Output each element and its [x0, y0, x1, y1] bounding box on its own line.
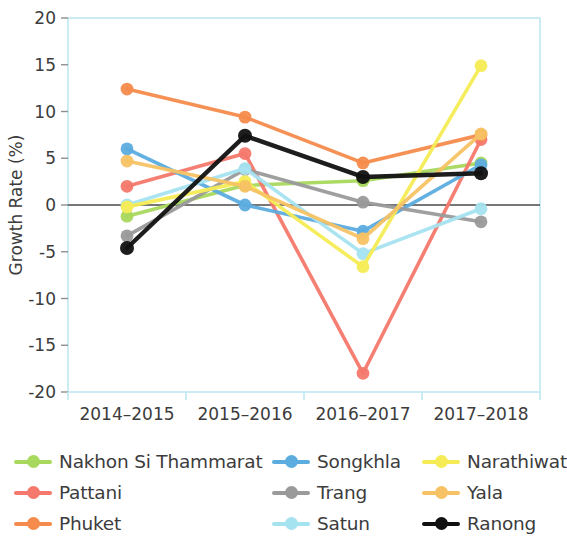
- line-chart-svg: -20-15-10-505101520Growth Rate (%)2014–2…: [0, 0, 552, 440]
- legend-label: Songkhla: [317, 451, 401, 472]
- legend-item-songkhla[interactable]: Songkhla: [272, 447, 422, 477]
- data-point-ranong: [120, 241, 134, 255]
- legend-marker-dot: [435, 455, 448, 468]
- data-point-narathiwat: [357, 260, 370, 273]
- series-line-phuket: [127, 89, 481, 163]
- legend-item-pattani[interactable]: Pattani: [14, 478, 272, 508]
- y-axis-tick-label: 15: [34, 55, 56, 75]
- data-point-yala: [475, 128, 488, 141]
- data-point-satun: [239, 162, 252, 175]
- y-axis-tick-label: -20: [28, 382, 56, 402]
- data-point-narathiwat: [475, 59, 488, 72]
- data-point-phuket: [121, 83, 134, 96]
- data-point-pattani: [239, 147, 252, 160]
- legend-swatch-ranong: [422, 517, 460, 531]
- legend-swatch-trang: [272, 486, 310, 500]
- data-point-pattani: [357, 367, 370, 380]
- y-axis-tick-label: -5: [39, 242, 56, 262]
- series-line-narathiwat: [127, 66, 481, 267]
- legend-marker-dot: [435, 517, 448, 530]
- x-axis-tick-label: 2016–2017: [315, 404, 410, 424]
- y-axis-title: Growth Rate (%): [6, 135, 26, 276]
- legend-item-yala[interactable]: Yala: [422, 478, 566, 508]
- data-point-songkhla: [239, 199, 252, 212]
- data-point-trang: [121, 229, 134, 242]
- legend-label: Ranong: [467, 513, 536, 534]
- y-axis-tick-label: 20: [34, 8, 56, 28]
- data-point-narathiwat: [121, 200, 134, 213]
- legend-item-satun[interactable]: Satun: [272, 509, 422, 539]
- legend-swatch-narathiwat: [422, 455, 460, 469]
- data-point-yala: [239, 180, 252, 193]
- legend-swatch-satun: [272, 517, 310, 531]
- x-axis-tick-label: 2015–2016: [197, 404, 292, 424]
- legend-swatch-songkhla: [272, 455, 310, 469]
- data-point-yala: [357, 232, 370, 245]
- chart-legend: Nakhon Si Thammarat Songkhla Narathiwat …: [0, 446, 552, 539]
- legend-marker-dot: [27, 455, 40, 468]
- legend-marker-dot: [285, 517, 298, 530]
- legend-item-ranong[interactable]: Ranong: [422, 509, 566, 539]
- data-point-satun: [475, 202, 488, 215]
- legend-label: Pattani: [59, 482, 122, 503]
- legend-item-trang[interactable]: Trang: [272, 478, 422, 508]
- legend-label: Nakhon Si Thammarat: [59, 451, 262, 472]
- data-point-ranong: [238, 129, 252, 143]
- y-axis-tick-label: -15: [28, 335, 56, 355]
- legend-swatch-nakhon-si-thammarat: [14, 455, 52, 469]
- legend-marker-dot: [285, 455, 298, 468]
- y-axis-tick-label: 5: [45, 148, 56, 168]
- legend-label: Phuket: [59, 513, 121, 534]
- legend-label: Narathiwat: [467, 451, 567, 472]
- x-axis-tick-label: 2017–2018: [433, 404, 528, 424]
- y-axis-tick-label: 0: [45, 195, 56, 215]
- legend-marker-dot: [27, 517, 40, 530]
- data-point-ranong: [356, 170, 370, 184]
- legend-swatch-yala: [422, 486, 460, 500]
- data-point-trang: [475, 215, 488, 228]
- data-point-ranong: [474, 166, 488, 180]
- data-point-trang: [357, 196, 370, 209]
- legend-marker-dot: [27, 486, 40, 499]
- data-point-phuket: [239, 111, 252, 124]
- legend-swatch-phuket: [14, 517, 52, 531]
- legend-swatch-pattani: [14, 486, 52, 500]
- legend-label: Yala: [467, 482, 503, 503]
- legend-item-nakhon-si-thammarat[interactable]: Nakhon Si Thammarat: [14, 447, 272, 477]
- legend-marker-dot: [285, 486, 298, 499]
- legend-item-narathiwat[interactable]: Narathiwat: [422, 447, 566, 477]
- data-point-phuket: [357, 157, 370, 170]
- data-point-yala: [121, 155, 134, 168]
- data-point-pattani: [121, 180, 134, 193]
- x-axis-tick-label: 2014–2015: [79, 404, 174, 424]
- y-axis-tick-label: -10: [28, 289, 56, 309]
- legend-marker-dot: [435, 486, 448, 499]
- data-point-songkhla: [121, 143, 134, 156]
- y-axis-tick-label: 10: [34, 102, 56, 122]
- plot-area: -20-15-10-505101520Growth Rate (%)2014–2…: [0, 0, 552, 440]
- legend-label: Satun: [317, 513, 370, 534]
- legend-item-phuket[interactable]: Phuket: [14, 509, 272, 539]
- legend-label: Trang: [317, 482, 367, 503]
